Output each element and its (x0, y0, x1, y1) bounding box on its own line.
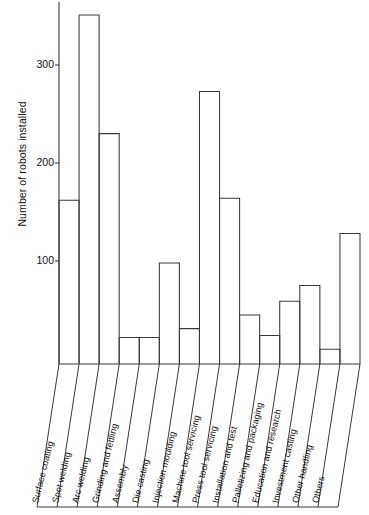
bar (59, 200, 79, 364)
bar (99, 134, 119, 364)
bar (340, 234, 360, 364)
label-box-separator (338, 364, 360, 507)
bar (199, 91, 219, 364)
bar-chart: Number of robots installed 300 200 100 S… (0, 0, 369, 515)
bar (119, 337, 139, 364)
bar (300, 286, 320, 365)
plot-area (0, 0, 369, 515)
bar (320, 349, 340, 364)
bar (79, 15, 99, 364)
bar (220, 198, 240, 364)
bar (159, 263, 179, 364)
bar (280, 301, 300, 364)
bar (179, 329, 199, 364)
bar (139, 337, 159, 364)
bar (260, 335, 280, 364)
bars-group (59, 15, 360, 364)
bar (240, 315, 260, 364)
